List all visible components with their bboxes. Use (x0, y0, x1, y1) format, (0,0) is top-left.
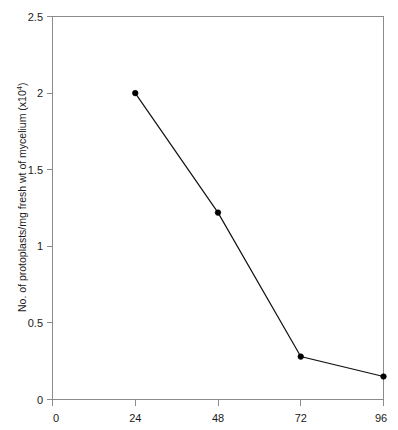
chart-figure: 2.5 2 1.5 1 0.5 0 0 24 48 72 96 No. of p… (0, 0, 398, 430)
data-point (298, 354, 304, 360)
line-chart: 2.5 2 1.5 1 0.5 0 0 24 48 72 96 No. of p… (0, 0, 398, 430)
x-tick-label-96: 96 (375, 412, 387, 424)
y-axis-title: No. of protoplasts/mg fresh wt of myceli… (15, 83, 28, 312)
y-axis-title-text: No. of protoplasts/mg fresh wt of myceli… (16, 90, 28, 312)
series-markers (132, 90, 386, 379)
data-point (381, 374, 387, 380)
x-axis-tick-labels: 0 24 48 72 96 (53, 412, 387, 424)
y-axis-title-suffix: ) (16, 83, 28, 87)
y-tick-label-1-5: 1.5 (28, 164, 43, 176)
x-tick-label-24: 24 (129, 412, 141, 424)
series-line (135, 93, 383, 376)
y-tick-label-2-5: 2.5 (28, 11, 43, 23)
svg-text:No. of protoplasts/mg fresh wt: No. of protoplasts/mg fresh wt of myceli… (15, 83, 28, 312)
y-axis-tick-labels: 2.5 2 1.5 1 0.5 0 (28, 11, 43, 406)
x-tick-label-48: 48 (212, 412, 224, 424)
y-tick-label-0: 0 (37, 394, 43, 406)
data-point (132, 90, 138, 96)
y-tick-label-2: 2 (37, 87, 43, 99)
data-point (215, 210, 221, 216)
x-tick-label-72: 72 (295, 412, 307, 424)
y-tick-label-1: 1 (37, 240, 43, 252)
plot-frame (53, 17, 384, 400)
y-axis-ticks (47, 17, 53, 400)
y-tick-label-0-5: 0.5 (28, 317, 43, 329)
x-axis-ticks (53, 400, 384, 406)
x-tick-label-0: 0 (53, 412, 59, 424)
data-series (132, 90, 386, 379)
